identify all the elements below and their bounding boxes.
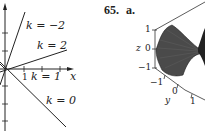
z-tick-0: 0 bbox=[145, 44, 151, 53]
x-axis-label: x bbox=[70, 71, 76, 82]
y-tick-0: 0 bbox=[172, 87, 178, 96]
curve-label-k-2: k = 2 bbox=[37, 40, 67, 51]
y-tick-1: 1 bbox=[190, 97, 196, 106]
exercise-part: a. bbox=[126, 4, 135, 16]
curve-label-k-neg2: k = −2 bbox=[26, 20, 65, 31]
curve-label-k-0: k = 0 bbox=[46, 95, 76, 106]
y-axis-label: y bbox=[165, 95, 170, 106]
x-tick-label: 1 bbox=[22, 73, 28, 82]
z-axis-label: z bbox=[136, 43, 141, 54]
exercise-number: 65. bbox=[104, 4, 119, 16]
z-tick-1: 1 bbox=[145, 25, 151, 34]
curve-label-k-1: k = 1 bbox=[31, 71, 61, 82]
y-tick-neg1: −1 bbox=[150, 78, 163, 87]
z-tick-neg1: −1 bbox=[138, 63, 151, 72]
